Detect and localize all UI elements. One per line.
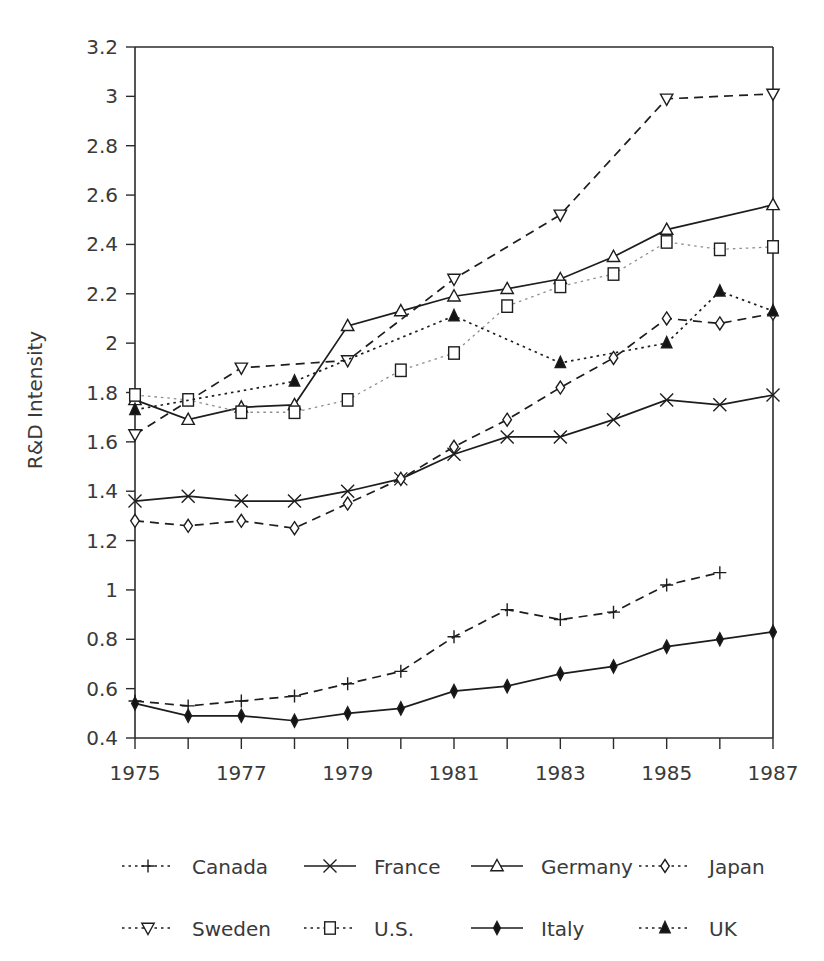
legend-label: Japan [707, 855, 765, 879]
y-tick-label: 2.4 [86, 232, 118, 256]
marker-square [502, 300, 513, 312]
marker-square [555, 280, 566, 292]
y-tick-label: 3 [105, 84, 118, 108]
legend-label: Italy [541, 917, 585, 941]
y-tick-label: 0.6 [86, 677, 118, 701]
square-marker [236, 406, 247, 418]
square-marker [661, 236, 672, 248]
legend-label: Germany [541, 855, 633, 879]
y-tick-label: 1.8 [86, 381, 118, 405]
marker-square [768, 241, 779, 253]
marker-square [608, 268, 619, 280]
square-marker [715, 243, 726, 255]
chart-background [0, 0, 824, 961]
square-marker [555, 280, 566, 292]
marker-square [342, 394, 353, 406]
x-tick-label: 1977 [216, 761, 267, 785]
x-tick-label: 1987 [748, 761, 799, 785]
y-tick-label: 2.6 [86, 183, 118, 207]
marker-square [325, 922, 336, 934]
square-marker [768, 241, 779, 253]
y-tick-label: 1 [105, 578, 118, 602]
legend-label: U.S. [374, 917, 414, 941]
rd-intensity-line-chart: R&D Intensity 0.40.60.811.21.41.61.822.2… [0, 0, 824, 961]
square-marker [289, 406, 300, 418]
square-marker [342, 394, 353, 406]
square-marker [396, 364, 407, 376]
y-axis-label-text: R&D Intensity [23, 331, 47, 469]
square-marker [608, 268, 619, 280]
x-tick-label: 1975 [110, 761, 161, 785]
x-tick-label: 1981 [429, 761, 480, 785]
marker-square [236, 406, 247, 418]
marker-square [661, 236, 672, 248]
marker-square [289, 406, 300, 418]
marker-square [449, 347, 460, 359]
marker-square [715, 243, 726, 255]
y-tick-label: 2.8 [86, 134, 118, 158]
marker-square [130, 389, 141, 401]
y-tick-label: 2.2 [86, 282, 118, 306]
chart-root: R&D Intensity 0.40.60.811.21.41.61.822.2… [0, 0, 824, 961]
square-marker [130, 389, 141, 401]
legend-label: Canada [192, 855, 268, 879]
y-axis-label: R&D Intensity [23, 331, 47, 469]
marker-square [396, 364, 407, 376]
y-tick-label: 1.2 [86, 529, 118, 553]
square-marker [502, 300, 513, 312]
y-tick-label: 3.2 [86, 35, 118, 59]
y-tick-label: 2 [105, 331, 118, 355]
x-tick-label: 1985 [641, 761, 692, 785]
legend-label: France [374, 855, 441, 879]
x-tick-label: 1979 [322, 761, 373, 785]
x-tick-label: 1983 [535, 761, 586, 785]
square-marker [325, 922, 336, 934]
y-tick-label: 0.4 [86, 726, 118, 750]
legend-label: UK [709, 917, 738, 941]
y-tick-label: 1.6 [86, 430, 118, 454]
y-tick-label: 1.4 [86, 479, 118, 503]
square-marker [449, 347, 460, 359]
y-tick-label: 0.8 [86, 627, 118, 651]
legend-label: Sweden [192, 917, 271, 941]
